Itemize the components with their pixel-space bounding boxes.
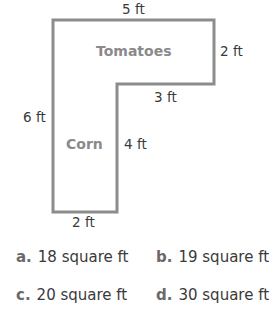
option-letter: a. bbox=[16, 248, 32, 266]
top-dimension-label: 5 ft bbox=[122, 1, 145, 17]
option-letter: c. bbox=[16, 286, 31, 304]
right-dimension-label: 2 ft bbox=[220, 43, 243, 59]
inner-horizontal-dimension-label: 3 ft bbox=[154, 89, 177, 105]
option-d[interactable]: d.30 square ft bbox=[156, 286, 269, 304]
option-a[interactable]: a.18 square ft bbox=[16, 248, 128, 266]
option-text: 20 square ft bbox=[37, 286, 128, 304]
corn-region-label: Corn bbox=[66, 136, 103, 152]
option-text: 18 square ft bbox=[38, 248, 129, 266]
option-text: 19 square ft bbox=[178, 248, 269, 266]
option-b[interactable]: b.19 square ft bbox=[156, 248, 269, 266]
left-dimension-label: 6 ft bbox=[23, 109, 46, 125]
inner-vertical-dimension-label: 4 ft bbox=[124, 136, 147, 152]
tomatoes-region-label: Tomatoes bbox=[96, 43, 171, 59]
option-text: 30 square ft bbox=[178, 286, 269, 304]
option-letter: b. bbox=[156, 248, 172, 266]
option-c[interactable]: c.20 square ft bbox=[16, 286, 127, 304]
option-letter: d. bbox=[156, 286, 172, 304]
bottom-dimension-label: 2 ft bbox=[72, 214, 95, 230]
